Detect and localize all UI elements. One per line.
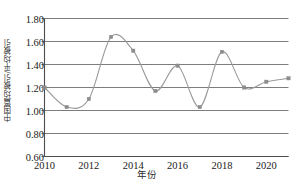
chart-container: 中国篇均被引/平均被引 0.600.801.001.201.401.601.80…: [0, 0, 294, 186]
x-axis-tick-labels: 201020122014201620182020: [0, 0, 294, 186]
x-axis-title: 年份: [0, 167, 294, 181]
